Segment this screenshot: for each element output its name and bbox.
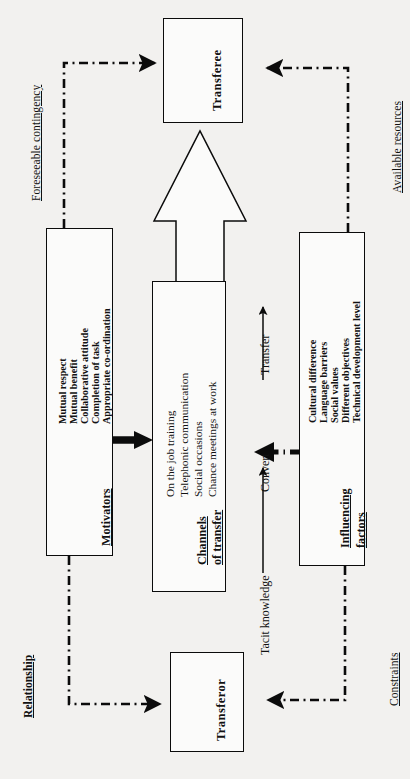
node-transferee-label: Transferee	[210, 49, 225, 111]
node-transferor-label: Transferor	[214, 679, 229, 741]
connector-motivators-to-transferee	[64, 63, 155, 228]
connector-motivators-to-channels	[113, 431, 153, 449]
connector-influencing-to-transferor	[268, 566, 345, 700]
label-convert: Convert	[258, 453, 272, 492]
connector-motivators-to-transferor	[69, 556, 160, 704]
node-transferee[interactable]: Transferee	[163, 18, 243, 123]
node-channels-item-2: Social occasions	[191, 421, 206, 497]
node-channels-item-0: On the job training	[163, 411, 178, 497]
block-arrow-transfer-flow	[154, 131, 246, 281]
label-transfer: Transfer	[258, 335, 272, 375]
node-channels-item-3: Chance meetings at work	[205, 382, 220, 497]
node-motivators[interactable]: Motivators Mutual respect Mutual benefit…	[46, 228, 113, 556]
node-influencing-title-line2: factors	[354, 512, 368, 548]
edge-label-foreseeable-contingency: Foreseeable contingency	[30, 85, 44, 201]
node-motivators-title: Motivators	[99, 488, 113, 546]
node-channels-title-line2: of transfer	[210, 510, 224, 565]
diagram-canvas: Transferee Transferor Motivators Mutual …	[0, 0, 410, 779]
node-channels-of-transfer[interactable]: Channels of transfer On the job training…	[152, 281, 226, 592]
node-influencing-item-4: Technical development level	[350, 301, 363, 423]
edge-label-relationship: Relationship	[22, 655, 36, 718]
label-tacit-knowledge: Tacit knowledge	[258, 576, 272, 655]
node-channels-item-1: Telephonic communication	[177, 373, 192, 497]
node-influencing-factors[interactable]: Influencing factors Cultural difference …	[299, 232, 365, 566]
connector-influencing-to-transferee	[267, 68, 348, 232]
node-influencing-title-line1: Influencing	[338, 488, 352, 548]
edge-label-available-resources: Available resources	[391, 101, 405, 193]
node-channels-title-line1: Channels	[195, 516, 209, 565]
edge-label-constraints: Constraints	[388, 653, 402, 707]
node-transferor[interactable]: Transferor	[170, 652, 244, 752]
node-motivators-item-4: Appropriate co-ordination	[100, 308, 113, 424]
